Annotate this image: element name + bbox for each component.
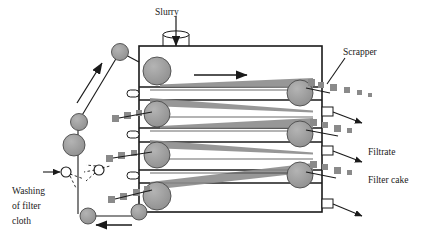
label-scrapper: Scrapper (343, 47, 377, 58)
wash-nozzle-left (61, 167, 71, 177)
roller-top-left (143, 57, 171, 85)
filtrate-outlet-nozzles-left (127, 90, 139, 179)
belt-filter-schematic (0, 0, 436, 240)
roller-bottom-mid (131, 204, 147, 220)
filtrate-nozzle-l2 (127, 131, 139, 138)
roller-apex (112, 44, 129, 61)
roller-left-3 (144, 142, 170, 168)
roller-right-2 (287, 121, 313, 147)
label-washing-line1: Washing (12, 186, 45, 197)
label-slurry: Slurry (155, 7, 179, 18)
roller-mid-left-1 (71, 114, 88, 131)
filtrate-nozzle-l1 (127, 90, 139, 97)
filtrate-nozzle-r1 (322, 107, 362, 123)
roller-left-2 (144, 101, 170, 127)
cloth-washing-station (43, 165, 110, 188)
roller-bottom-left (80, 208, 96, 224)
filtrate-nozzle-l3 (127, 172, 139, 179)
arrow-belt-diagonal-up (77, 63, 102, 103)
diagram-canvas: Slurry Scrapper Filtrate Filter cake Was… (0, 0, 436, 240)
label-filtrate: Filtrate (368, 147, 395, 158)
label-filter-cake: Filter cake (368, 175, 408, 186)
roller-right-3 (287, 162, 313, 188)
filtrate-nozzle-r2 (322, 146, 362, 162)
roller-mid-left-2 (63, 134, 85, 156)
wash-nozzle-right (94, 165, 104, 175)
label-washing-line2: of filter (12, 201, 41, 212)
filtrate-nozzle-r3 (322, 199, 362, 216)
label-washing-line3: cloth (12, 216, 31, 227)
